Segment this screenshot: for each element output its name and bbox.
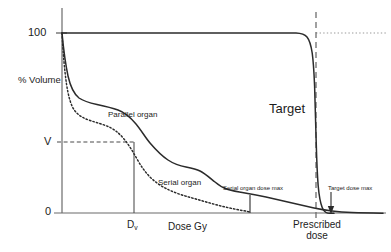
- x-axis-label: Dose Gy: [168, 222, 207, 232]
- dvh-plot-canvas: [0, 0, 391, 252]
- x-axis-tick-dv-subscript: v: [134, 224, 137, 231]
- prescribed-dose-label-line2: dose: [289, 230, 345, 241]
- target-dose-max-label: Target dose max: [328, 185, 372, 191]
- y-axis-label: % Volume: [18, 75, 61, 85]
- y-axis-tick-100: 100: [28, 27, 46, 38]
- x-axis-tick-dv: Dv: [127, 220, 138, 231]
- y-axis-tick-v: V: [44, 136, 51, 147]
- y-axis-tick-0: 0: [45, 206, 51, 217]
- prescribed-dose-label-line1: Prescribed: [289, 219, 345, 230]
- parallel-organ-label: Parallel organ: [108, 111, 157, 119]
- serial-organ-label: Serial organ: [158, 179, 201, 187]
- serial-organ-dose-max-label: Serial organ dose max: [223, 185, 283, 191]
- dvh-chart-figure: 100 V 0 % Volume Dv Dose Gy Parallel org…: [0, 0, 391, 252]
- prescribed-dose-label: Prescribed dose: [289, 219, 345, 241]
- target-label: Target: [269, 102, 305, 115]
